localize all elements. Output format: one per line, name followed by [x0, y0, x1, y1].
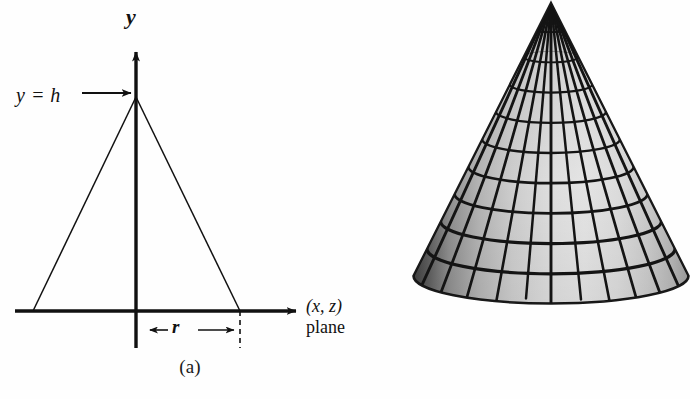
xz-plane-label-line2: plane — [306, 317, 345, 337]
caption-a: (a) — [140, 356, 240, 378]
triangle-left-edge — [33, 97, 136, 311]
height-label: y = h — [16, 84, 61, 107]
triangle-right-edge — [136, 97, 240, 311]
figure-root: y = h y r (x, z) plane (a) — [0, 0, 690, 399]
cone-svg — [360, 0, 690, 399]
cone-wireframe — [413, 2, 689, 304]
panel-b-cone: (b) — [360, 0, 690, 399]
radius-label: r — [172, 316, 179, 338]
xz-plane-label: (x, z) plane — [306, 296, 345, 338]
cross-section-svg — [0, 0, 360, 399]
y-axis-label: y — [126, 4, 136, 30]
panel-a-cross-section: y = h y r (x, z) plane (a) — [0, 0, 360, 399]
xz-plane-label-line1: (x, z) — [306, 296, 342, 316]
